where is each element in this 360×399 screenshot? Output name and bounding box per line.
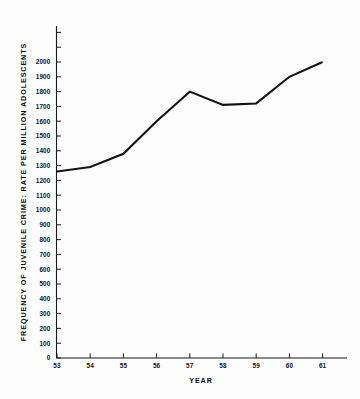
y-tick-label: 1900: [36, 73, 51, 80]
y-tick-label: 900: [39, 221, 50, 228]
y-tick-label: 100: [39, 340, 50, 347]
x-tick-label: 56: [153, 362, 161, 369]
y-tick-label: 600: [39, 266, 50, 273]
y-tick-label: 1500: [36, 132, 51, 139]
x-tick-label: 58: [219, 362, 227, 369]
x-tick-label: 57: [186, 362, 194, 369]
y-tick-label: 700: [39, 251, 50, 258]
y-tick-label: 300: [39, 310, 50, 317]
y-tick-label: 1000: [36, 206, 51, 213]
x-tick-label: 61: [319, 362, 327, 369]
y-tick-label: 1200: [36, 177, 51, 184]
y-tick-label: 1700: [36, 103, 51, 110]
x-axis-title: YEAR: [189, 376, 213, 385]
y-tick-label: 500: [39, 280, 50, 287]
x-tick-label: 54: [86, 362, 94, 369]
line-chart: 0100200300400500600700800900100011001200…: [0, 0, 360, 399]
y-tick-label: 400: [39, 295, 50, 302]
x-tick-label: 59: [252, 362, 260, 369]
chart-figure: 0100200300400500600700800900100011001200…: [0, 0, 360, 399]
x-tick-label: 53: [53, 362, 61, 369]
y-tick-label: 200: [39, 325, 50, 332]
y-axis-title: FREQUENCY OF JUVENILE CRIME: RATE PER MI…: [19, 43, 28, 341]
y-tick-label: 1100: [36, 192, 51, 199]
chart-background: [0, 0, 360, 399]
y-tick-label: 0: [47, 354, 51, 361]
y-tick-label: 1300: [36, 162, 51, 169]
x-tick-label: 60: [286, 362, 294, 369]
y-tick-label: 1400: [36, 147, 51, 154]
y-tick-label: 1600: [36, 118, 51, 125]
y-tick-label: 1800: [36, 88, 51, 95]
y-tick-label: 2000: [36, 58, 51, 65]
x-tick-label: 55: [120, 362, 128, 369]
y-tick-label: 800: [39, 236, 50, 243]
